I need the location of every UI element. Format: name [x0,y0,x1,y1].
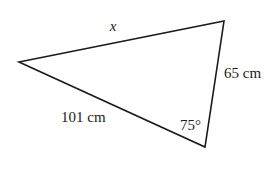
angle-label-75-degrees: 75° [180,117,201,133]
side-label-65-cm: 65 cm [224,65,261,81]
triangle-diagram: x 65 cm 101 cm 75° [0,0,279,171]
side-label-101-cm: 101 cm [61,109,106,125]
side-label-x: x [109,18,117,34]
